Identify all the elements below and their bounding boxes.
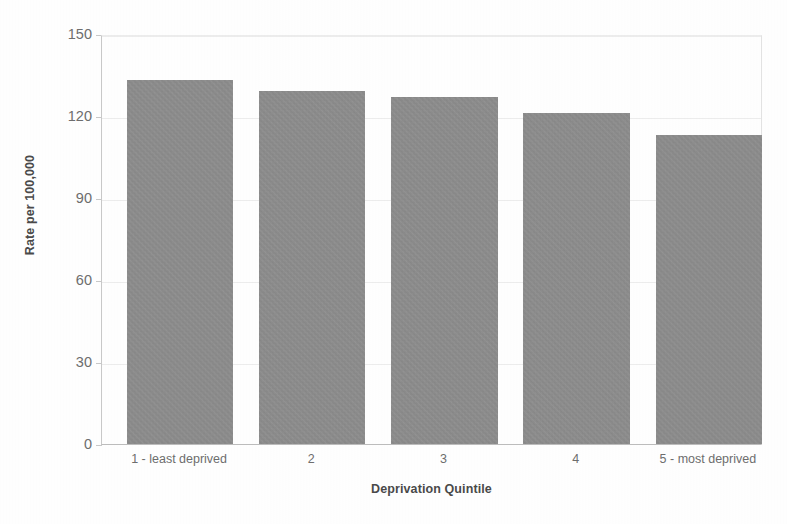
y-tick-label: 0 bbox=[28, 437, 92, 452]
x-tick-label: 4 bbox=[510, 452, 642, 466]
plot-area bbox=[101, 35, 762, 445]
y-tick-label: 90 bbox=[28, 191, 92, 206]
x-tick-label: 1 - least deprived bbox=[113, 452, 245, 466]
x-tick-label: 2 bbox=[245, 452, 377, 466]
bar[interactable] bbox=[391, 97, 497, 444]
bar[interactable] bbox=[523, 113, 629, 444]
x-tick-label: 5 - most deprived bbox=[642, 452, 774, 466]
y-tick-label: 30 bbox=[28, 355, 92, 370]
bar[interactable] bbox=[259, 91, 365, 444]
bar-chart-figure: Rate per 100,000 0306090120150 1 - least… bbox=[0, 0, 787, 524]
gridline bbox=[102, 36, 761, 37]
y-tick-label: 120 bbox=[28, 109, 92, 124]
bar[interactable] bbox=[127, 80, 233, 444]
x-axis-title: Deprivation Quintile bbox=[101, 482, 762, 496]
y-tick-mark bbox=[96, 445, 102, 446]
bar[interactable] bbox=[656, 135, 762, 444]
y-tick-label: 150 bbox=[28, 27, 92, 42]
y-tick-label: 60 bbox=[28, 273, 92, 288]
x-tick-label: 3 bbox=[377, 452, 509, 466]
